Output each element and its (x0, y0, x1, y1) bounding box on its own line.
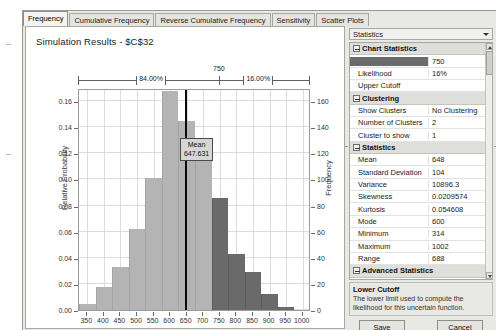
stat-row-label: Variance (350, 180, 428, 189)
stat-group-header[interactable]: Chart Statistics (350, 43, 485, 55)
save-button[interactable]: Save (359, 320, 405, 330)
stat-group-header[interactable]: Statistics (350, 142, 485, 154)
stat-row[interactable]: Mean648 (350, 154, 485, 166)
y-tick-left (74, 285, 78, 286)
stat-row-value[interactable]: 648 (428, 155, 485, 164)
stat-row-value[interactable]: 0.054608 (428, 205, 485, 214)
cutoff-value-label: 750 (213, 65, 225, 72)
y-tick-left (74, 154, 78, 155)
x-tick (169, 312, 170, 316)
collapse-icon[interactable] (353, 267, 360, 274)
stat-row-value[interactable]: 104 (428, 168, 485, 177)
simulation-results-window: Frequency Cumulative Frequency Reverse C… (22, 10, 496, 330)
cancel-button[interactable]: Cancel (437, 320, 483, 330)
histogram-bar[interactable] (195, 140, 212, 310)
y-tick-label-left: 0.00 (46, 307, 72, 314)
histogram-bar[interactable] (145, 178, 162, 310)
collapse-icon[interactable] (353, 144, 360, 151)
stat-row[interactable]: Skewness0.0209574 (350, 191, 485, 203)
stat-row[interactable]: Variance10896.3 (350, 179, 485, 191)
ruler-line (78, 80, 310, 81)
stat-row-value[interactable]: 600 (428, 217, 485, 226)
y-tick-left (74, 259, 78, 260)
stat-row[interactable]: Cluster to show1 (350, 129, 485, 141)
stat-row-value[interactable]: 750 (428, 57, 485, 66)
stat-row[interactable]: Mean Abs. Deviation83 (350, 278, 485, 279)
percent-above-label: 16.00% (244, 75, 272, 82)
plot-area (78, 89, 310, 311)
histogram-bar[interactable] (228, 254, 245, 310)
histogram-bar[interactable] (278, 307, 295, 310)
histogram-bar[interactable] (245, 272, 262, 310)
scroll-up-button[interactable] (486, 43, 493, 50)
stat-row-value[interactable]: 688 (428, 254, 485, 263)
stat-row-value[interactable]: 10896.3 (428, 180, 485, 189)
stat-row-label: Mean (350, 155, 428, 164)
stat-row[interactable]: Mode600 (350, 216, 485, 228)
y-tick-label-left: 0.02 (46, 281, 72, 288)
stat-row[interactable]: Likelihood16% (350, 68, 485, 80)
scrollbar-thumb[interactable] (486, 51, 493, 75)
histogram-bar[interactable] (79, 304, 96, 311)
y-tick-label-left: 0.04 (46, 255, 72, 262)
statistics-grid: Chart StatisticsLower Cutoff750Likelihoo… (349, 42, 493, 280)
collapse-icon[interactable] (353, 45, 360, 52)
stat-group-label: Chart Statistics (362, 44, 485, 53)
histogram-plot[interactable]: 0.0000.02200.04400.06600.08800.101000.12… (78, 89, 310, 311)
stat-row[interactable]: Minimum314 (350, 228, 485, 240)
stat-group-header[interactable]: Advanced Statistics (350, 265, 485, 277)
histogram-bar[interactable] (112, 267, 129, 310)
histogram-bar[interactable] (162, 91, 179, 310)
histogram-bar[interactable] (129, 229, 146, 310)
chevron-down-icon[interactable] (483, 33, 489, 36)
stat-row-value[interactable]: No Clustering (428, 106, 485, 115)
chart-title: Simulation Results - $C$32 (36, 36, 154, 47)
y-tick-label-right: 100 (317, 176, 339, 183)
gridline-horizontal (79, 100, 309, 101)
stat-row[interactable]: Standard Deviation104 (350, 166, 485, 178)
tab-sensitivity[interactable]: Sensitivity (272, 13, 316, 26)
y-tick-right (311, 259, 315, 260)
stat-row[interactable]: Kurtosis0.054608 (350, 203, 485, 215)
chart-pane: Simulation Results - $C$32 750 84.00% 16… (25, 26, 345, 329)
tab-frequency[interactable]: Frequency (23, 11, 68, 26)
ruler-inner-cap-above-left (243, 76, 244, 85)
tab-reverse-cumulative-frequency[interactable]: Reverse Cumulative Frequency (155, 13, 270, 26)
ruler-inner-cap-below-right (165, 76, 166, 85)
mean-tooltip-value: 647.631 (184, 150, 209, 159)
collapse-icon[interactable] (353, 95, 360, 102)
x-tick (219, 312, 220, 316)
stat-row-value[interactable]: 2 (428, 118, 485, 127)
statistics-selector[interactable]: Statistics (349, 28, 493, 40)
tab-cumulative-frequency[interactable]: Cumulative Frequency (69, 13, 154, 26)
stat-row-label: Upper Cutoff (350, 81, 428, 90)
stat-row-label: Skewness (350, 192, 428, 201)
statistics-scrollbar[interactable] (485, 43, 492, 279)
stat-row-label: Maximum (350, 242, 428, 251)
stat-row[interactable]: Number of Clusters2 (350, 117, 485, 129)
stat-row-value[interactable]: 1002 (428, 242, 485, 251)
tab-scatter-plots[interactable]: Scatter Plots (316, 13, 369, 26)
stat-group-header[interactable]: Clustering (350, 92, 485, 104)
y-tick-left (74, 102, 78, 103)
stat-row[interactable]: Range688 (350, 253, 485, 265)
stat-row[interactable]: Lower Cutoff750 (350, 55, 485, 67)
stat-row[interactable]: Maximum1002 (350, 241, 485, 253)
x-tick (86, 312, 87, 316)
x-tick-label: 1000 (290, 317, 314, 324)
stat-row-value[interactable]: 1 (428, 131, 485, 140)
histogram-bar[interactable] (261, 294, 278, 310)
y-tick-label-left: 0.14 (46, 124, 72, 131)
histogram-bar[interactable] (212, 198, 229, 310)
ruler-inner-cap-below-left (136, 76, 137, 85)
mean-tooltip: Mean 647.631 (180, 138, 213, 161)
stat-row-value[interactable]: 16% (428, 69, 485, 78)
x-tick (235, 312, 236, 316)
stat-row-value[interactable]: 314 (428, 229, 485, 238)
stat-row-label: Standard Deviation (350, 168, 428, 177)
stat-row[interactable]: Upper Cutoff (350, 80, 485, 92)
histogram-bar[interactable] (96, 287, 113, 311)
stat-row[interactable]: Show ClustersNo Clustering (350, 105, 485, 117)
scroll-down-button[interactable] (486, 272, 493, 279)
stat-row-value[interactable]: 0.0209574 (428, 192, 485, 201)
